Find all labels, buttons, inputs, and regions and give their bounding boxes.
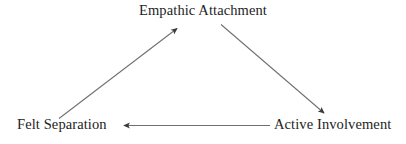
arrow-felt-separation-to-empathic-attachment	[59, 29, 177, 119]
node-label-empathic-attachment: Empathic Attachment	[0, 3, 406, 18]
node-label-active-involvement: Active Involvement	[274, 117, 391, 132]
node-label-felt-separation: Felt Separation	[17, 117, 107, 132]
cycle-diagram: Empathic Attachment Felt Separation Acti…	[0, 0, 406, 144]
arrow-empathic-attachment-to-active-involvement	[221, 25, 324, 114]
